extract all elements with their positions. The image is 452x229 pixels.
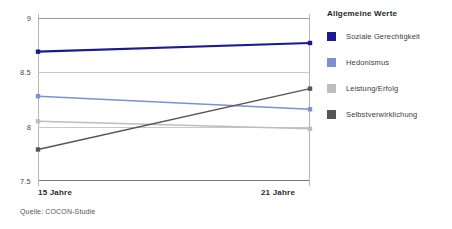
legend-item-label: Selbstverwirklichung [346,110,417,119]
series-lines [38,18,310,181]
data-point-marker [308,127,312,131]
legend-item-label: Hedonismus [346,58,389,67]
data-point-marker [308,41,312,45]
legend-color-swatch [327,110,336,119]
plot-area: 98.587.5 [38,18,310,181]
y-axis-tick-label: 9 [27,14,31,23]
data-point-marker [36,119,40,123]
legend-title: Allgemeine Werte [327,9,452,18]
legend-color-swatch [327,32,336,41]
legend-item[interactable]: Hedonismus [327,56,452,69]
series-line [38,121,310,129]
legend-item[interactable]: Soziale Gerechtigkeit [327,30,452,43]
y-axis-tick-label: 8.5 [20,68,31,77]
data-point-marker [308,107,312,111]
legend-color-swatch [327,58,336,67]
legend-item-label: Soziale Gerechtigkeit [346,32,420,41]
data-point-marker [36,147,40,151]
x-axis-label-right: 21 Jahre [261,188,295,197]
legend-item[interactable]: Leistung/Erfolg [327,82,452,95]
data-point-marker [308,86,312,90]
source-note: Quelle: COCON-Studie [20,208,95,215]
data-point-marker [36,49,40,53]
data-point-marker [36,94,40,98]
y-axis-tick-label: 7.5 [20,177,31,186]
series-line [38,43,310,52]
legend-item-label: Leistung/Erfolg [346,84,398,93]
legend-item[interactable]: Selbstverwirklichung [327,108,452,121]
legend-item-list: Soziale GerechtigkeitHedonismusLeistung/… [327,30,452,121]
line-chart: 98.587.5 15 Jahre 21 Jahre Quelle: COCON… [0,0,320,229]
x-axis-label-left: 15 Jahre [38,188,72,197]
chart-legend: Allgemeine Werte Soziale GerechtigkeitHe… [327,9,452,134]
legend-color-swatch [327,84,336,93]
chart-page: 98.587.5 15 Jahre 21 Jahre Quelle: COCON… [0,0,452,229]
y-axis-tick-label: 8 [27,122,31,131]
